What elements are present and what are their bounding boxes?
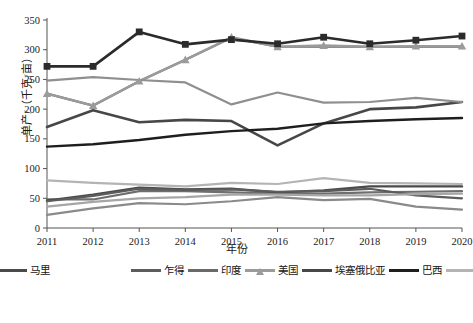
y-axis-title: 单产/（千克/亩） <box>18 24 34 164</box>
legend-item[interactable]: 美国 <box>245 264 298 277</box>
series-marker <box>274 40 281 47</box>
series-line <box>47 38 462 106</box>
legend-swatch-icon <box>245 264 275 277</box>
legend-swatch-icon <box>446 264 473 277</box>
series-marker <box>459 33 466 40</box>
legend-label: 巴西 <box>422 264 442 277</box>
chart-legend: 苏丹尼日尔马里乍得印度美国埃塞俄比亚巴西尼日利亚布基纳法索墨西哥中国 <box>0 264 473 323</box>
legend-swatch-icon <box>302 264 332 277</box>
legend-swatch-icon <box>389 264 419 277</box>
legend-swatch-icon <box>188 264 218 277</box>
legend-label: 马里 <box>30 264 50 277</box>
legend-item[interactable]: 尼日利亚 <box>446 264 473 277</box>
series-marker <box>136 28 143 35</box>
series-marker <box>320 34 327 41</box>
series-line <box>47 178 462 186</box>
series-line <box>47 37 462 105</box>
series-marker <box>412 37 419 44</box>
series-marker <box>44 63 51 70</box>
series-line <box>47 77 462 104</box>
series-line <box>47 102 462 145</box>
series-marker <box>182 41 189 48</box>
legend-item[interactable]: 巴西 <box>389 264 442 277</box>
series-marker <box>228 36 235 43</box>
legend-item[interactable]: 埃塞俄比亚 <box>302 264 385 277</box>
legend-swatch-icon <box>0 264 27 277</box>
svg-text:50: 50 <box>30 193 41 204</box>
legend-item[interactable]: 马里 <box>0 264 127 277</box>
legend-label: 乍得 <box>164 264 184 277</box>
legend-label: 印度 <box>221 264 241 277</box>
legend-label: 美国 <box>278 264 298 277</box>
series-line <box>47 32 462 66</box>
plot-area: 单产/（千克/亩） 050100150200250300350201120122… <box>0 0 473 262</box>
svg-text:0: 0 <box>35 223 40 234</box>
line-chart: 单产/（千克/亩） 050100150200250300350201120122… <box>0 0 473 323</box>
legend-label: 埃塞俄比亚 <box>335 264 385 277</box>
legend-item[interactable]: 乍得 <box>131 264 184 277</box>
series-marker <box>90 63 97 70</box>
x-axis-title: 年份 <box>0 240 473 256</box>
legend-swatch-icon <box>131 264 161 277</box>
svg-text:100: 100 <box>24 163 40 174</box>
legend-item[interactable]: 印度 <box>188 264 241 277</box>
chart-svg: 0501001502002503003502011201220132014201… <box>0 0 473 262</box>
series-marker <box>366 40 373 47</box>
